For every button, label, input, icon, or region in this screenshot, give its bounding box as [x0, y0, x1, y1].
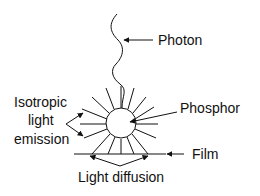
- phosphor-pointer: [130, 112, 177, 122]
- photon-label: Photon: [158, 32, 202, 48]
- isotropic-pointer-upper: [66, 113, 83, 124]
- isotropic-label-line2: light: [28, 112, 54, 128]
- film-label: Film: [192, 146, 218, 162]
- diffusion-label: Light diffusion: [78, 169, 164, 185]
- isotropic-label-line1: Isotropic: [14, 94, 67, 110]
- isotropic-label-line3: emission: [14, 131, 69, 147]
- diffusion-pointer-right: [120, 156, 148, 166]
- phosphor-film-diagram: Photon Phosphor Film Isotropic light emi…: [0, 0, 260, 196]
- photon-wave: [111, 14, 124, 108]
- diffusion-pointer-left: [90, 156, 120, 166]
- phosphor-grain: [106, 108, 136, 138]
- phosphor-label: Phosphor: [180, 100, 240, 116]
